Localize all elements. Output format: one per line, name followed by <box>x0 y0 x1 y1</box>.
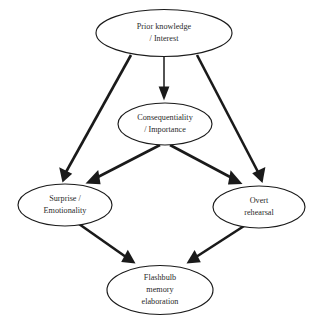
arrowhead-icon <box>228 170 243 184</box>
node-label-line-2: / Interest <box>150 34 180 43</box>
diagram-canvas: Prior knowledge / Interest Consequential… <box>0 0 320 322</box>
arrowhead-icon <box>86 170 101 184</box>
edge-prior-knowledge-to-consequentiality <box>159 57 170 101</box>
edge-consequentiality-to-overt-rehearsal <box>170 145 243 185</box>
node-surprise[interactable]: Surprise / Emotionality <box>18 184 112 226</box>
node-consequentiality[interactable]: Consequentiality / Importance <box>118 103 212 145</box>
node-label-line-1: Consequentiality <box>137 113 193 122</box>
arrowhead-icon <box>159 87 170 101</box>
arrowhead-icon <box>59 167 72 182</box>
node-label-line-2: Emotionality <box>44 206 88 215</box>
node-shape[interactable] <box>213 186 305 228</box>
node-prior-knowledge[interactable]: Prior knowledge / Interest <box>96 10 232 57</box>
edge-line <box>170 145 232 178</box>
node-label-line-1: Surprise / <box>49 194 81 203</box>
edge-overt-rehearsal-to-flashbulb <box>187 226 245 264</box>
node-label-line-2: memory <box>146 285 174 294</box>
edge-line <box>66 55 131 172</box>
edge-line <box>79 224 126 257</box>
node-shape[interactable] <box>96 10 232 57</box>
node-label-line-1: Overt <box>250 196 269 205</box>
node-label-line-2: / Importance <box>144 125 186 134</box>
node-label-line-3: elaboration <box>142 297 179 306</box>
arrowhead-icon <box>252 167 265 183</box>
flowchart-svg: Prior knowledge / Interest Consequential… <box>0 0 320 322</box>
node-label-line-1: Flashbulb <box>144 273 176 282</box>
edge-line <box>196 226 244 257</box>
edge-consequentiality-to-surprise <box>86 145 161 184</box>
edge-surprise-to-flashbulb <box>79 224 136 264</box>
node-overt-rehearsal[interactable]: Overt rehearsal <box>213 186 305 228</box>
node-shape[interactable] <box>118 103 212 145</box>
node-shape[interactable] <box>18 184 112 226</box>
node-label-line-2: rehearsal <box>244 208 274 217</box>
node-label-line-1: Prior knowledge <box>137 22 192 31</box>
node-flashbulb[interactable]: Flashbulb memory elaboration <box>107 266 213 315</box>
edge-line <box>96 145 160 178</box>
